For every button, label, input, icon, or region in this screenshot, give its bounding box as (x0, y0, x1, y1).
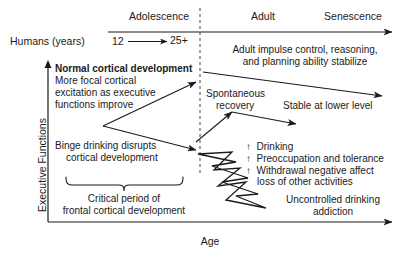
normal-development-line1: More focal cortical (55, 75, 136, 86)
normal-development-line2: excitation as executive (55, 87, 156, 98)
normal-development-heading: Normal cortical development (55, 63, 192, 74)
adult-stabilize-line1: Adult impulse control, reasoning, (206, 44, 404, 55)
range-start-label: 12 (112, 36, 124, 48)
adult-stabilize-line2: and planning ability stabilize (206, 56, 404, 67)
figure-canvas: 25+ inner arrow --> Adolescence Adult Se… (0, 0, 408, 256)
range-end-label: 25+ (170, 35, 188, 47)
spontaneous-recovery-path (196, 112, 232, 142)
escalation-item-3: loss of other activities (246, 176, 384, 188)
critical-period-line1: Critical period of (58, 193, 190, 204)
y-axis-arrowhead (45, 60, 52, 68)
humans-years-label: Humans (years) (10, 36, 85, 48)
spontaneous-recovery-line1: Spontaneous (206, 88, 265, 99)
stage-label-adolescence: Adolescence (113, 11, 205, 23)
x-axis-label: Age (150, 236, 270, 248)
critical-period-brace (66, 177, 183, 191)
escalation-item-1: ↑ Preoccupation and tolerance (246, 153, 384, 165)
uncontrolled-drinking-line2: addiction (268, 206, 398, 217)
y-axis-label: Executive Functions (36, 118, 48, 212)
spontaneous-recovery-line2: recovery (216, 100, 254, 111)
uncontrolled-drinking-line1: Uncontrolled drinking (268, 194, 398, 205)
normal-development-line3: functions improve (55, 99, 133, 110)
critical-period-line2: frontal cortical development (44, 205, 204, 216)
stage-label-adult: Adult (228, 11, 298, 23)
stable-lower-level-arrow (232, 112, 296, 124)
binge-drinking-line1: Binge drinking disrupts (55, 140, 156, 151)
stage-label-senescence: Senescence (312, 11, 394, 23)
escalation-item-0: ↑ Drinking (246, 141, 384, 153)
binge-drinking-line2: cortical development (66, 152, 158, 163)
stable-lower-level-label: Stable at lower level (283, 100, 373, 111)
escalation-item-2: ↑ Withdrawal negative affect (246, 165, 384, 177)
escalation-list: ↑ Drinking ↑ Preoccupation and tolerance… (246, 141, 384, 188)
